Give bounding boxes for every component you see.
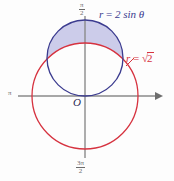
axis-label-pi-over-2: π 2 [79,2,85,18]
equation-blue-rhs: 2 sin θ [115,8,144,20]
equation-label-blue: r = 2 sin θ [99,9,144,20]
polar-plot-figure: π 2 3π 2 π O r = 2 sin θ r = √2 [0,0,174,181]
axis-label-pi-over-2-denominator: 2 [79,10,85,17]
equation-red-radicand: 2 [147,52,154,64]
axis-label-3pi-over-2-denominator: 2 [76,168,85,175]
origin-label: O [73,97,81,108]
axis-label-pi: π [8,90,12,97]
polar-plot-canvas [0,0,174,181]
equation-label-red: r = √2 [126,52,154,64]
axis-label-3pi-over-2: 3π 2 [76,160,85,176]
